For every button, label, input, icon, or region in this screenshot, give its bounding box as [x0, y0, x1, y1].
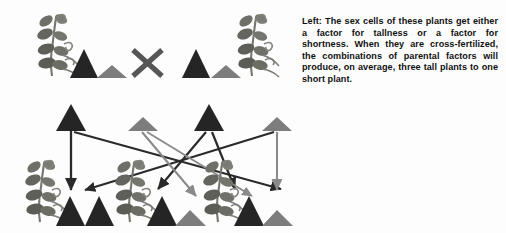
offspring-1-tall-factor-triangle-b	[85, 196, 114, 226]
arrow-short-left-to-offspring3	[147, 132, 252, 196]
offspring-2-short-factor-triangle	[175, 210, 206, 226]
gamete-tall-right-triangle	[194, 104, 224, 131]
gamete-row	[56, 104, 292, 131]
offspring-2-plant	[114, 158, 157, 223]
inheritance-diagram	[0, 0, 300, 233]
parent-right-short-factor-triangle	[211, 65, 241, 78]
parent-left-plant	[36, 12, 79, 77]
figure-root: Left: The sex cells of these plants get …	[0, 0, 506, 233]
parent-left-short-factor-triangle	[97, 65, 127, 78]
arrow-tall-left-to-offspring2	[74, 132, 281, 189]
offspring-3-short-factor-triangle	[262, 210, 293, 226]
parent-right-plant	[236, 12, 279, 77]
figure-caption: Left: The sex cells of these plants get …	[302, 16, 498, 86]
parent-right-tall-factor-triangle	[182, 49, 210, 78]
offspring-1-tall-factor-triangle-a	[56, 196, 85, 226]
offspring-3-tall-factor-triangle	[234, 196, 264, 226]
offspring-1	[24, 158, 114, 226]
arrow-group	[71, 131, 281, 196]
gamete-short-right-triangle	[262, 117, 292, 131]
cross-symbol	[133, 50, 162, 76]
parent-row	[36, 12, 279, 78]
diagram-canvas	[0, 0, 300, 233]
gamete-tall-left-triangle	[56, 104, 86, 131]
offspring-1-plant	[24, 158, 67, 223]
gamete-short-left-triangle	[128, 117, 158, 131]
offspring-3-plant	[202, 158, 245, 223]
